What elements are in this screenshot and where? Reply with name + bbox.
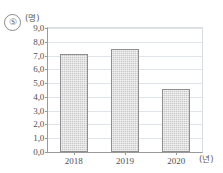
y-axis-tick-label: 2,0 <box>33 120 44 129</box>
y-axis-tick-mark <box>45 97 48 98</box>
question-number-marker: ⑤ <box>4 14 21 31</box>
bar-2018 <box>60 54 88 152</box>
x-axis-tick-label: 2020 <box>167 157 185 166</box>
y-axis-tick-label: 9,0 <box>33 24 44 33</box>
y-axis-tick-mark <box>45 69 48 70</box>
y-axis-tick-label: 4,0 <box>33 92 44 101</box>
y-axis-tick-mark <box>45 111 48 112</box>
y-axis-tick-mark <box>45 56 48 57</box>
x-axis-tick-label: 2018 <box>65 157 83 166</box>
x-axis-tick-mark <box>176 152 177 155</box>
y-axis-tick-mark <box>45 83 48 84</box>
y-axis-tick-label: 8,0 <box>33 37 44 46</box>
y-axis-tick-label: 1,0 <box>33 134 44 143</box>
y-axis-tick-mark <box>45 138 48 139</box>
y-axis-tick-label: 3,0 <box>33 106 44 115</box>
x-axis-tick-label: 2019 <box>116 157 134 166</box>
y-axis-tick-mark <box>45 152 48 153</box>
gridline <box>48 28 202 29</box>
gridline <box>48 42 202 43</box>
plot-area: 9,08,07,06,05,04,03,02,01,00,0 201820192… <box>47 27 203 153</box>
y-axis-tick-label: 6,0 <box>33 65 44 74</box>
y-axis-tick-label: 0,0 <box>33 148 44 157</box>
x-axis-tick-mark <box>125 152 126 155</box>
bar-chart-figure: ⑤ (명) 9,08,07,06,05,04,03,02,01,00,0 201… <box>0 0 223 173</box>
y-axis-tick-mark <box>45 28 48 29</box>
y-axis-tick-mark <box>45 124 48 125</box>
y-axis-tick-label: 5,0 <box>33 79 44 88</box>
bar-2019 <box>111 49 139 152</box>
bar-2020 <box>162 89 190 152</box>
x-axis-unit-label: (년) <box>199 152 214 164</box>
y-axis-tick-label: 7,0 <box>33 51 44 60</box>
y-axis-unit-label: (명) <box>25 11 40 23</box>
x-axis-tick-mark <box>74 152 75 155</box>
y-axis-tick-mark <box>45 42 48 43</box>
